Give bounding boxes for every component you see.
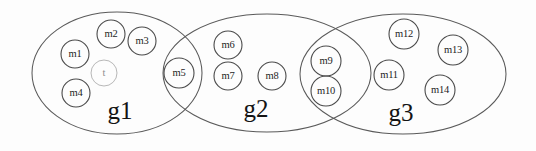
group-label-layer: g1g2g3: [108, 95, 414, 126]
member-node-m1: m1: [61, 40, 89, 68]
member-label-m3: m3: [136, 35, 149, 46]
member-node-m12: m12: [389, 19, 419, 49]
member-label-m4: m4: [70, 87, 84, 98]
member-label-m6: m6: [222, 39, 235, 50]
member-label-m1: m1: [69, 48, 82, 59]
member-label-m10: m10: [317, 85, 335, 96]
member-label-m13: m13: [444, 44, 462, 55]
group-label-g2: g2: [244, 95, 269, 122]
member-label-m12: m12: [395, 28, 413, 39]
member-node-m14: m14: [425, 75, 455, 105]
member-label-m14: m14: [431, 84, 450, 95]
member-node-m8: m8: [258, 62, 286, 90]
member-node-m6: m6: [214, 31, 242, 59]
member-node-m2: m2: [97, 20, 125, 48]
member-node-m10: m10: [311, 76, 341, 106]
diagram-canvas: m1m2m3tm4m5m6m7m8m9m10m11m12m13m14 g1g2g…: [0, 0, 536, 151]
group-label-g1: g1: [108, 97, 133, 124]
member-label-t: t: [103, 67, 106, 78]
member-node-m11: m11: [374, 60, 404, 90]
member-node-m7: m7: [214, 62, 242, 90]
member-node-t: t: [91, 60, 117, 86]
member-label-m8: m8: [266, 70, 279, 81]
member-label-m7: m7: [222, 70, 235, 81]
member-label-m9: m9: [320, 55, 333, 66]
member-node-m9: m9: [311, 46, 341, 76]
group-overlap-diagram: m1m2m3tm4m5m6m7m8m9m10m11m12m13m14 g1g2g…: [0, 0, 536, 151]
member-label-m2: m2: [105, 28, 118, 39]
group-label-g3: g3: [389, 99, 414, 126]
member-node-m3: m3: [128, 27, 156, 55]
member-node-m4: m4: [62, 79, 90, 107]
member-node-m5: m5: [164, 58, 194, 88]
member-label-m5: m5: [173, 67, 186, 78]
member-label-m11: m11: [380, 69, 397, 80]
member-node-m13: m13: [438, 35, 468, 65]
